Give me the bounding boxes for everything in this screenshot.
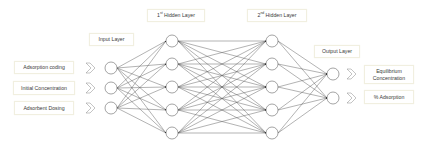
output-node-1 <box>327 68 339 80</box>
edge-input-to-hidden-1 <box>117 87 166 108</box>
input-node-3 <box>105 102 117 114</box>
input-label-adsorbent-dosing: Adsorbent Dosing <box>14 101 74 115</box>
hidden-layer-1-title: 1st Hidden Layer <box>147 9 205 22</box>
hidden-2-node-2 <box>266 58 278 70</box>
input-node-1 <box>105 62 117 74</box>
chevron-right-icon <box>86 83 95 93</box>
edge-input-to-hidden-1 <box>117 64 166 108</box>
chevron-right-icon <box>347 69 356 79</box>
input-layer-title: Input Layer <box>89 33 134 46</box>
hidden-2-node-5 <box>266 127 278 139</box>
edge-input-to-hidden-1 <box>117 87 166 88</box>
input-node-2 <box>105 82 117 94</box>
chevron-right-icon <box>86 63 95 73</box>
input-label-text: Adsorption coding <box>23 64 65 70</box>
edge-hidden-2-to-output <box>278 74 327 110</box>
hidden-1-node-4 <box>166 104 178 116</box>
input-layer-title-text: Input Layer <box>99 36 125 42</box>
hidden-1-node-5 <box>166 127 178 139</box>
edge-input-to-hidden-1 <box>117 108 166 110</box>
edge-hidden-2-to-output <box>278 87 327 98</box>
edge-input-to-hidden-1 <box>117 88 166 133</box>
hidden-layer-1-title-text: 1st Hidden Layer <box>157 12 195 18</box>
output-label-line2: Concentration <box>373 75 405 81</box>
edge-input-to-hidden-1 <box>117 88 166 110</box>
hidden-1-node-1 <box>166 35 178 47</box>
hidden-1-node-2 <box>166 58 178 70</box>
hidden-2-node-3 <box>266 81 278 93</box>
output-label-text: % Adsorption <box>374 94 405 100</box>
output-label-equilibrium-concentration: Equilibrium Concentration <box>364 65 414 84</box>
edge-hidden-2-to-output <box>278 74 327 87</box>
input-label-text: Initial Concentration <box>21 85 67 91</box>
hidden-1-node-3 <box>166 81 178 93</box>
hidden-2-node-1 <box>266 35 278 47</box>
output-node-2 <box>327 92 339 104</box>
hidden-layer-2-title-text: 2nd Hidden Layer <box>258 12 297 18</box>
hidden-layer-2-title: 2nd Hidden Layer <box>247 9 307 22</box>
chevron-right-icon <box>347 93 356 103</box>
hidden-2-node-4 <box>266 104 278 116</box>
edge-input-to-hidden-1 <box>117 68 166 133</box>
connection-edges <box>117 41 327 133</box>
output-layer-title: Output Layer <box>314 45 360 58</box>
input-label-text: Adsorbent Dosing <box>23 105 64 111</box>
edge-input-to-hidden-1 <box>117 108 166 133</box>
input-label-initial-concentration: Initial Concentration <box>13 81 75 95</box>
edge-hidden-2-to-output <box>278 98 327 110</box>
output-label-percent-adsorption: % Adsorption <box>364 90 414 104</box>
output-layer-title-text: Output Layer <box>322 48 352 54</box>
input-label-adsorption-coding: Adsorption coding <box>14 61 74 74</box>
chevron-right-icon <box>86 103 95 113</box>
